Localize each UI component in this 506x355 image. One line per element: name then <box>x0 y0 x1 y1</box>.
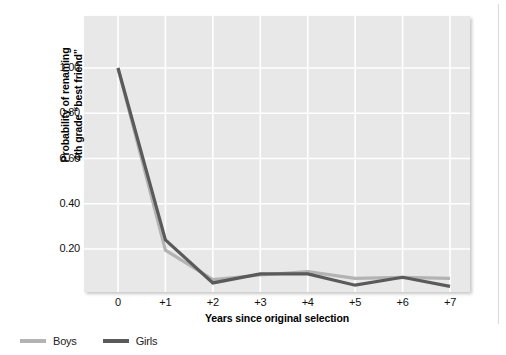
chart-figure: Probability of renaming 4th grade “best … <box>0 0 506 355</box>
page-edge-strip <box>498 4 506 324</box>
legend-swatch-girls <box>103 339 129 343</box>
x-axis-title: Years since original selection <box>84 312 470 324</box>
x-axis-tick-labels: 0+1+2+3+4+5+6+7 <box>0 0 506 355</box>
legend-swatch-boys <box>20 339 46 343</box>
legend-label: Boys <box>53 335 77 347</box>
x-tick-label: +4 <box>293 296 323 308</box>
x-tick-label: +6 <box>388 296 418 308</box>
x-tick-label: +3 <box>245 296 275 308</box>
x-tick-label: +1 <box>150 296 180 308</box>
chart-legend: BoysGirls <box>20 332 320 350</box>
legend-item-girls[interactable]: Girls <box>103 335 158 347</box>
x-tick-label: +5 <box>340 296 370 308</box>
legend-item-boys[interactable]: Boys <box>20 335 77 347</box>
x-tick-label: +7 <box>435 296 465 308</box>
x-tick-label: +2 <box>198 296 228 308</box>
legend-label: Girls <box>136 335 158 347</box>
x-tick-label: 0 <box>103 296 133 308</box>
